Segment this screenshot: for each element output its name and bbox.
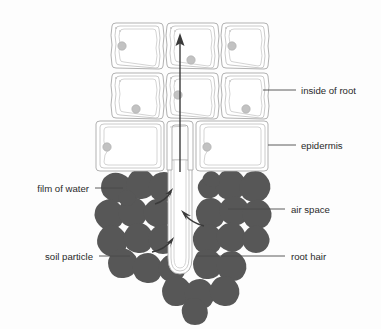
label-soil-particle: soil particle (45, 251, 93, 262)
label-air-space: air space (291, 204, 330, 215)
cell-nucleus (174, 91, 182, 99)
label-root-hair: root hair (291, 251, 327, 262)
diagram-canvas: inside of root epidermis air space root … (0, 0, 381, 329)
epidermis-cell-left (96, 121, 164, 171)
soil-particle (239, 171, 270, 202)
cell-nucleus (242, 105, 250, 113)
cell-lumen (204, 127, 261, 165)
cell-nucleus (103, 143, 111, 151)
inner-cell-row-top (111, 23, 269, 69)
label-inside-of-root: inside of root (301, 85, 356, 96)
soil-particle (217, 223, 247, 252)
root-hair (168, 160, 192, 274)
soil-particle (108, 249, 138, 279)
inner-cell-mid-right (221, 73, 269, 119)
cell-nucleus (203, 143, 211, 151)
inner-cell-mid-center (166, 73, 219, 119)
soil-particle (133, 253, 163, 283)
cell-nucleus (228, 42, 236, 50)
soil-particle (242, 226, 269, 253)
soil-particle (242, 200, 271, 229)
cell-nucleus (187, 56, 195, 64)
root-hair-diagram: inside of root epidermis air space root … (0, 0, 381, 329)
cell-lumen (104, 127, 157, 165)
inner-cell-top-right (221, 23, 269, 69)
inner-cell-top-left (111, 23, 164, 69)
cell-nucleus (132, 105, 140, 113)
label-epidermis: epidermis (301, 140, 343, 151)
cell-nucleus (118, 42, 126, 50)
inner-cell-row-middle (111, 73, 269, 119)
inner-cell-mid-left (111, 73, 164, 119)
epidermis-cell-right (196, 121, 268, 171)
label-film-of-water: film of water (37, 183, 90, 194)
inner-cell-top-center (166, 23, 219, 69)
